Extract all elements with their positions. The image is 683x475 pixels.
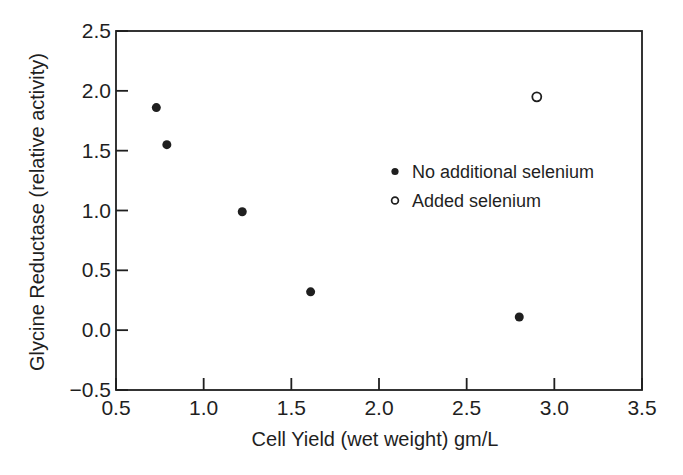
y-tick-label: 2.5	[82, 19, 111, 42]
figure-page: 0.51.01.52.02.53.03.5−0.50.00.51.01.52.0…	[0, 0, 683, 475]
legend-open-circle-icon	[392, 197, 399, 204]
axis-tick-labels: 0.51.01.52.02.53.03.5−0.50.00.51.01.52.0…	[70, 19, 657, 419]
y-tick-label: −0.5	[70, 378, 111, 401]
x-tick-label: 3.5	[627, 396, 656, 419]
legend: No additional selenium Added selenium	[391, 162, 594, 211]
data-point-filled-circle	[152, 103, 161, 112]
legend-filled-circle-icon	[391, 168, 398, 175]
x-tick-label: 1.5	[277, 396, 306, 419]
legend-label-added-selenium: Added selenium	[412, 191, 541, 211]
data-point-filled-circle	[306, 287, 315, 296]
x-tick-label: 2.5	[452, 396, 481, 419]
y-tick-label: 0.5	[82, 258, 111, 281]
plot-frame	[116, 31, 642, 390]
x-tick-label: 1.0	[189, 396, 218, 419]
data-point-filled-circle	[162, 140, 171, 149]
legend-label-no-selenium: No additional selenium	[412, 162, 594, 182]
y-tick-label: 1.5	[82, 139, 111, 162]
y-tick-label: 2.0	[82, 79, 111, 102]
data-point-open-circle	[532, 92, 541, 101]
x-tick-label: 2.0	[364, 396, 393, 419]
data-point-filled-circle	[515, 313, 524, 322]
scatter-plot: 0.51.01.52.02.53.03.5−0.50.00.51.01.52.0…	[0, 0, 683, 475]
data-point-filled-circle	[238, 207, 247, 216]
y-tick-label: 1.0	[82, 199, 111, 222]
x-axis-title: Cell Yield (wet weight) gm/L	[252, 428, 499, 450]
x-tick-label: 3.0	[540, 396, 569, 419]
axis-ticks	[116, 31, 642, 390]
y-axis-title: Glycine Reductase (relative activity)	[26, 53, 48, 371]
y-tick-label: 0.0	[82, 318, 111, 341]
